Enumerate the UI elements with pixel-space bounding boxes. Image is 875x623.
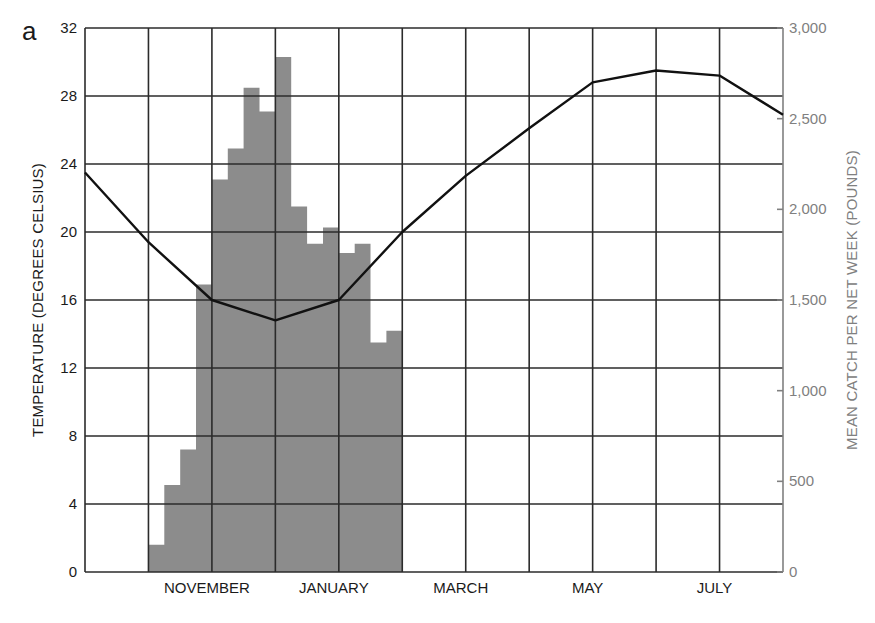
temperature-line xyxy=(85,71,783,321)
right-tick-label: 3,000 xyxy=(789,19,827,36)
right-axis-title: MEAN CATCH PER NET WEEK (POUNDS) xyxy=(843,150,860,450)
panel-letter: a xyxy=(22,16,36,47)
left-tick-label: 12 xyxy=(60,359,77,376)
left-tick-label: 32 xyxy=(60,19,77,36)
chart-canvas: 04812162024283205001,0001,5002,0002,5003… xyxy=(0,0,875,623)
left-axis-title: TEMPERATURE (DEGREES CELSIUS) xyxy=(29,163,46,437)
left-tick-label: 8 xyxy=(69,427,77,444)
right-tick-label: 0 xyxy=(789,563,797,580)
right-tick-label: 1,500 xyxy=(789,291,827,308)
left-tick-label: 0 xyxy=(69,563,77,580)
left-tick-label: 24 xyxy=(60,155,77,172)
left-tick-label: 28 xyxy=(60,87,77,104)
x-tick-label: MARCH xyxy=(433,579,488,596)
right-tick-label: 1,000 xyxy=(789,382,827,399)
left-tick-label: 16 xyxy=(60,291,77,308)
right-tick-label: 2,000 xyxy=(789,200,827,217)
x-tick-label: JULY xyxy=(697,579,733,596)
right-tick-label: 500 xyxy=(789,472,814,489)
left-tick-label: 4 xyxy=(69,495,77,512)
x-tick-label: MAY xyxy=(572,579,603,596)
x-tick-label: JANUARY xyxy=(299,579,369,596)
left-tick-label: 20 xyxy=(60,223,77,240)
x-tick-label: NOVEMBER xyxy=(164,579,250,596)
right-tick-label: 2,500 xyxy=(789,110,827,127)
